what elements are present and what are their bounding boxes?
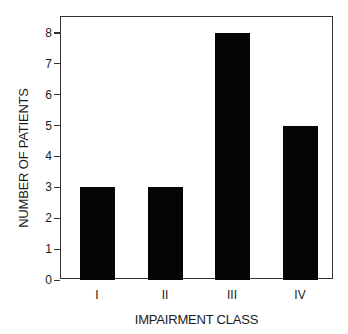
y-tick — [54, 63, 60, 64]
y-tick — [54, 249, 60, 250]
x-tick-label: I — [77, 289, 117, 301]
y-tick-label: 2 — [38, 212, 52, 224]
bar-chart: 012345678 IIIIIIIV NUMBER OF PATIENTS IM… — [0, 0, 348, 334]
y-axis-label: NUMBER OF PATIENTS — [16, 88, 31, 228]
bar-II — [148, 187, 183, 280]
y-tick-label: 8 — [38, 27, 52, 39]
x-tick-label: IV — [280, 289, 320, 301]
x-tick-label: II — [145, 289, 185, 301]
y-tick — [54, 125, 60, 126]
y-tick-label: 3 — [38, 181, 52, 193]
x-tick-label: III — [212, 289, 252, 301]
y-tick — [54, 94, 60, 95]
y-tick — [54, 156, 60, 157]
y-tick-label: 4 — [38, 150, 52, 162]
y-tick-label: 0 — [38, 274, 52, 286]
y-tick — [54, 280, 60, 281]
x-axis-label: IMPAIRMENT CLASS — [60, 312, 333, 327]
y-tick-label: 1 — [38, 243, 52, 255]
y-tick — [54, 32, 60, 33]
y-tick — [54, 218, 60, 219]
y-tick-label: 6 — [38, 89, 52, 101]
y-tick — [54, 187, 60, 188]
y-tick-label: 5 — [38, 120, 52, 132]
y-tick-label: 7 — [38, 58, 52, 70]
bar-IV — [283, 126, 318, 281]
bar-III — [215, 33, 250, 280]
bar-I — [80, 187, 115, 280]
